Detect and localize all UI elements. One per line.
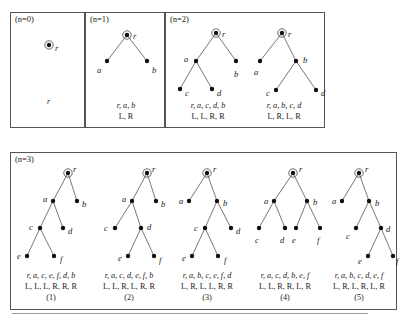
caption-sequence-n3-t1: r, a, c, e, f, d, b: [9, 271, 93, 282]
node-label-c: c: [185, 88, 189, 98]
node-r: [125, 33, 129, 37]
node-c: [257, 226, 261, 230]
caption-n0-t1: r: [11, 97, 86, 108]
node-label-f: f: [60, 254, 64, 264]
node-label-a: a: [43, 194, 47, 204]
node-label-a: a: [264, 196, 268, 206]
node-label-f: f: [396, 256, 400, 266]
node-a: [272, 199, 276, 203]
node-label-r: r: [213, 164, 217, 174]
caption-n1-t1: r, a, bL, R: [86, 101, 166, 122]
caption-lr-n3-t2: L, L, R, L, R, R: [87, 282, 171, 293]
caption-lr-n3-t1: L, L, L, R, R, R: [9, 282, 93, 293]
node-label-d: d: [236, 226, 241, 236]
node-r: [145, 171, 149, 175]
edge-a-d: [196, 61, 212, 89]
node-label-b: b: [313, 197, 318, 207]
tree-graphic-n2-t2: rabcd: [246, 23, 326, 105]
tree-n3-t3: rabcdef: [169, 161, 247, 269]
node-e: [126, 254, 130, 258]
node-d: [210, 87, 214, 91]
node-e: [294, 226, 298, 230]
caption-sequence-n1-t1: r, a, b: [86, 101, 166, 112]
node-label-d: d: [280, 235, 285, 245]
tree-n3-t1: rabcdef: [13, 161, 91, 269]
node-d: [379, 226, 383, 230]
edge-b-e: [296, 201, 307, 228]
node-label-f: f: [317, 235, 321, 245]
caption-n2-t1: r, a, c, d, bL, L, R, R: [166, 101, 250, 122]
edge-d-e: [368, 228, 381, 256]
node-b: [75, 199, 79, 203]
node-label-d: d: [321, 88, 326, 98]
node-label-f: f: [159, 255, 163, 265]
node-a: [130, 199, 134, 203]
edge-c-f: [40, 228, 54, 256]
node-b: [234, 59, 238, 63]
panel-n0: (n=0)rr: [10, 12, 85, 128]
node-a: [258, 59, 262, 63]
tree-number-n3-t5: (5): [319, 293, 399, 302]
node-label-e: e: [358, 256, 362, 266]
caption-sequence-n0-t1: r: [11, 97, 86, 108]
caption-lr-n1-t1: L, R: [86, 112, 166, 123]
node-d: [314, 88, 318, 92]
tree-graphic-n2-t1: rabcd: [168, 23, 248, 105]
node-label-b: b: [82, 199, 87, 209]
edge-r-b: [216, 33, 236, 61]
edge-a-d: [274, 201, 285, 228]
tree-n3-t5: rabcdef: [323, 161, 398, 269]
edge-b-c: [356, 201, 369, 228]
edge-r-b: [127, 35, 147, 61]
edge-r-a: [53, 173, 68, 201]
tree-graphic-n3-t2: rabcdef: [91, 161, 169, 269]
tree-n0-t1: r: [11, 27, 86, 87]
caption-n3-t4: r, a, c, d, b, e, fL, L, R, R, L, R: [243, 271, 327, 292]
caption-n3-t3: r, a, b, c, e, f, dL, R, L, L, R, R: [165, 271, 249, 292]
node-a: [51, 199, 55, 203]
node-r: [205, 171, 209, 175]
footer-rule: [12, 313, 368, 314]
caption-lr-n2-t2: L, R, L, R: [242, 112, 326, 123]
node-f: [152, 254, 156, 258]
node-e: [366, 254, 370, 258]
node-label-r: r: [55, 43, 59, 53]
node-r: [66, 171, 70, 175]
node-label-a: a: [184, 54, 188, 64]
node-r: [357, 171, 361, 175]
tree-n2-t1: rabcd: [168, 23, 248, 105]
tree-n1-t1: rab: [86, 23, 166, 85]
node-label-r: r: [133, 31, 137, 41]
edge-a-d: [53, 201, 63, 228]
edge-b-c: [276, 61, 296, 90]
binary-tree-figure: (n=0)rr(n=1)rabr, a, bL, R(n=2)rabcdr, a…: [0, 0, 413, 327]
node-label-d: d: [68, 226, 73, 236]
tree-number-n3-t2: (2): [87, 293, 171, 302]
node-b: [145, 59, 149, 63]
node-f: [216, 254, 220, 258]
node-label-r: r: [288, 29, 292, 39]
node-label-r: r: [365, 164, 369, 174]
tree-graphic-n1-t1: rab: [86, 23, 166, 85]
edge-a-d: [132, 201, 141, 228]
node-c: [354, 226, 358, 230]
node-d: [283, 226, 287, 230]
edge-a-c: [115, 201, 132, 228]
node-b: [367, 199, 371, 203]
edge-r-a: [132, 173, 147, 201]
node-c: [113, 226, 117, 230]
node-a: [194, 59, 198, 63]
caption-sequence-n3-t3: r, a, b, c, e, f, d: [165, 271, 249, 282]
node-r: [280, 31, 284, 35]
caption-sequence-n2-t1: r, a, c, d, b: [166, 101, 250, 112]
node-label-c: c: [194, 223, 198, 233]
edge-b-d: [296, 61, 316, 90]
tree-number-n3-t1: (1): [9, 293, 93, 302]
node-b: [305, 199, 309, 203]
node-d: [61, 226, 65, 230]
node-label-b: b: [375, 198, 380, 208]
caption-lr-n3-t5: L, R, L, R, L, R: [319, 282, 399, 293]
caption-lr-n3-t4: L, L, R, R, L, R: [243, 282, 327, 293]
node-label-e: e: [118, 253, 122, 263]
caption-sequence-n2-t2: r, a, b, c, d: [242, 101, 326, 112]
